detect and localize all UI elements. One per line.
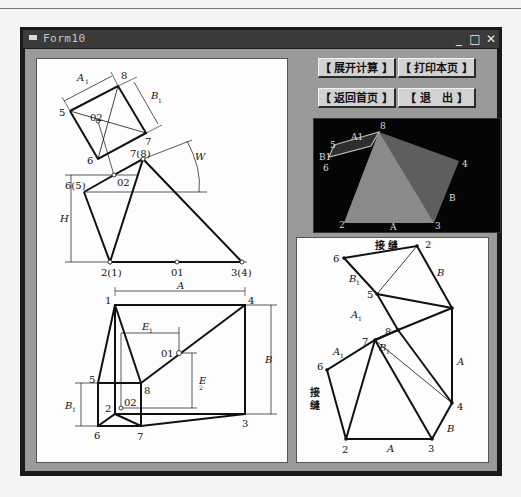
window-app-icon[interactable] — [29, 35, 37, 40]
3d-hopper-render: 8 A1 5 B1 6 4 B 2 A 3 — [314, 119, 500, 232]
svg-text:A: A — [386, 443, 394, 454]
svg-text:B: B — [449, 193, 456, 203]
3d-preview-image: 8 A1 5 B1 6 4 B 2 A 3 — [313, 118, 501, 233]
svg-text:7: 7 — [362, 336, 368, 347]
svg-text:2: 2 — [342, 444, 348, 455]
svg-text:2(1): 2(1) — [101, 267, 122, 278]
title-bar[interactable]: Form10 _ □ ✕ — [23, 30, 499, 48]
minimize-button[interactable]: _ — [452, 32, 466, 46]
svg-text:1: 1 — [158, 97, 162, 104]
svg-text:8: 8 — [380, 121, 386, 131]
svg-text:6: 6 — [94, 430, 100, 441]
svg-text:H: H — [59, 213, 69, 224]
svg-text:3: 3 — [428, 443, 434, 454]
page-rule — [0, 8, 521, 9]
svg-text:1: 1 — [356, 279, 360, 286]
svg-text:4: 4 — [457, 401, 463, 412]
svg-text:2: 2 — [339, 220, 345, 230]
unfolded-pattern-canvas: 接 缝 2 6 B 1 B 5 A 1 8 B 1 7 A 1 A 6 — [296, 237, 489, 463]
svg-text:B: B — [436, 267, 444, 278]
svg-text:1: 1 — [105, 295, 111, 306]
svg-text:6: 6 — [323, 163, 329, 173]
svg-text:2: 2 — [425, 239, 431, 250]
svg-text:7(8): 7(8) — [130, 148, 151, 159]
svg-text:B1: B1 — [319, 152, 331, 162]
svg-text:4: 4 — [248, 295, 254, 306]
svg-text:1: 1 — [358, 315, 362, 322]
svg-text:缝: 缝 — [310, 399, 320, 411]
back-home-button[interactable]: 【 返回首页 】 — [318, 88, 396, 108]
svg-text:01: 01 — [161, 348, 174, 359]
maximize-button[interactable]: □ — [468, 32, 482, 46]
svg-text:02: 02 — [124, 397, 137, 408]
svg-text:2: 2 — [199, 384, 203, 391]
svg-text:1: 1 — [386, 348, 390, 355]
unfolded-pattern-drawing: 接 缝 2 6 B 1 B 5 A 1 8 B 1 7 A 1 A 6 — [297, 238, 488, 462]
window-title: Form10 — [43, 32, 86, 45]
svg-text:5: 5 — [330, 140, 336, 150]
form10-window: Form10 _ □ ✕ — [20, 27, 502, 476]
svg-text:W: W — [195, 151, 206, 162]
svg-text:A: A — [176, 280, 184, 291]
svg-text:1: 1 — [340, 352, 344, 359]
svg-text:4: 4 — [462, 159, 468, 169]
svg-text:1: 1 — [72, 406, 76, 413]
svg-text:1: 1 — [85, 78, 89, 85]
svg-text:B: B — [446, 423, 454, 434]
svg-text:2: 2 — [105, 403, 111, 414]
svg-text:1: 1 — [149, 327, 153, 334]
svg-text:接: 接 — [310, 386, 320, 398]
svg-text:A: A — [350, 309, 358, 320]
svg-text:B: B — [264, 354, 272, 365]
svg-text:6: 6 — [317, 361, 323, 372]
svg-text:A: A — [332, 346, 340, 357]
unfold-calc-button[interactable]: 【 展开计算 】 — [318, 58, 396, 78]
svg-text:A: A — [456, 356, 464, 367]
svg-text:7: 7 — [145, 136, 151, 147]
svg-text:3(4): 3(4) — [231, 267, 252, 278]
svg-text:接 缝: 接 缝 — [375, 239, 398, 251]
svg-text:6: 6 — [87, 155, 93, 166]
svg-text:02: 02 — [90, 112, 103, 123]
form-client-area: A 1 8 B 1 5 02 7 6 7(8) 6(5) 02 W H 2(1)… — [25, 49, 497, 471]
svg-text:8: 8 — [144, 385, 150, 396]
svg-text:01: 01 — [171, 267, 184, 278]
print-page-button[interactable]: 【 打印本页 】 — [398, 58, 476, 78]
svg-text:A: A — [76, 72, 84, 83]
svg-text:5: 5 — [367, 289, 373, 300]
left-drawing-canvas: A 1 8 B 1 5 02 7 6 7(8) 6(5) 02 W H 2(1)… — [36, 58, 288, 463]
svg-text:3: 3 — [435, 221, 441, 231]
svg-text:6: 6 — [333, 253, 339, 264]
svg-text:8: 8 — [121, 70, 127, 81]
svg-text:3: 3 — [242, 418, 248, 429]
svg-text:7: 7 — [137, 431, 143, 442]
svg-text:02: 02 — [117, 177, 130, 188]
svg-text:A: A — [389, 222, 397, 232]
svg-text:5: 5 — [89, 374, 95, 385]
svg-text:8: 8 — [385, 326, 391, 337]
exit-button[interactable]: 【 退 出 】 — [398, 88, 476, 108]
close-button[interactable]: ✕ — [484, 32, 498, 46]
projection-drawing: A 1 8 B 1 5 02 7 6 7(8) 6(5) 02 W H 2(1)… — [37, 59, 287, 462]
svg-text:A1: A1 — [350, 132, 363, 142]
svg-text:5: 5 — [59, 107, 65, 118]
svg-text:6(5): 6(5) — [65, 180, 86, 191]
